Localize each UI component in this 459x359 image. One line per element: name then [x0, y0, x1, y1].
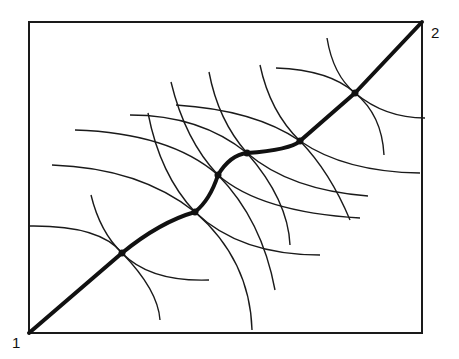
arc-e-vertical [260, 65, 350, 220]
arc-c-vertical [171, 82, 275, 290]
arc-d-vertical [209, 72, 290, 245]
arc-f-horizontal [276, 68, 425, 118]
arc-a-vertical [91, 195, 160, 320]
arc-b-horizontal [52, 165, 320, 255]
end-label: 2 [431, 24, 439, 41]
optimal-path [29, 22, 422, 333]
arc-f-vertical [327, 38, 384, 155]
start-label: 1 [12, 334, 20, 351]
frame-border [29, 22, 422, 333]
diagram-canvas [0, 0, 459, 359]
